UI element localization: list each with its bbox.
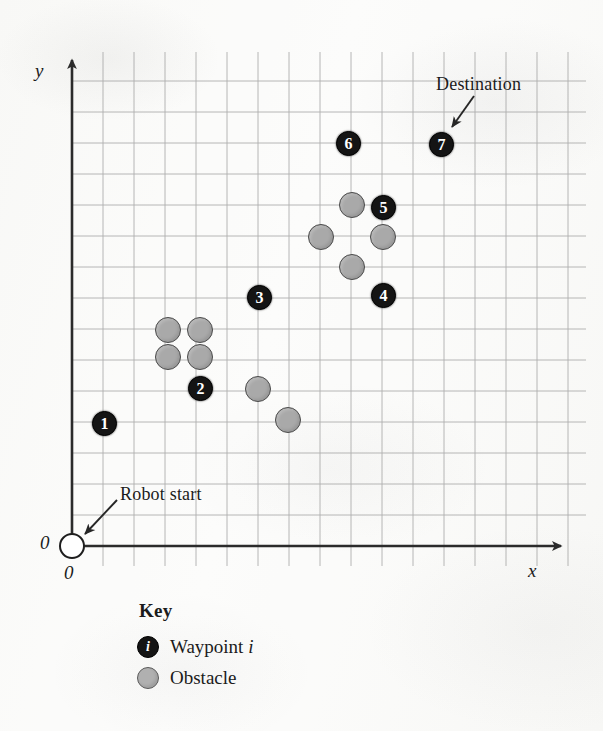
robot-start-leader-arrow	[85, 500, 117, 534]
key-label-waypoint-text: Waypoint	[170, 636, 248, 657]
key-title: Key	[139, 600, 253, 622]
x-origin-label: 0	[64, 562, 74, 584]
obstacle-marker	[275, 407, 301, 433]
waypoint-marker-7: 7	[429, 132, 454, 157]
obstacle-marker	[339, 254, 365, 280]
obstacle-marker	[308, 224, 334, 250]
key-row-obstacle: Obstacle	[137, 662, 253, 693]
obstacle-marker	[370, 224, 396, 250]
waypoint-marker-3: 3	[247, 285, 272, 310]
waypoint-marker-icon: i	[137, 636, 159, 658]
key-label-waypoint: Waypoint i	[170, 636, 253, 658]
key-label-waypoint-index: i	[248, 636, 253, 657]
waypoint-marker-5: 5	[371, 195, 396, 220]
waypoint-marker-4: 4	[371, 283, 396, 308]
plot-canvas	[0, 0, 603, 731]
waypoint-marker-6: 6	[336, 131, 361, 156]
y-axis-label: y	[35, 60, 43, 82]
obstacle-marker-icon	[137, 667, 159, 689]
destination-leader-arrow	[452, 96, 474, 127]
obstacle-marker	[187, 317, 213, 343]
obstacle-marker	[339, 192, 365, 218]
waypoint-marker-2: 2	[188, 376, 213, 401]
waypoint-grid-figure: y x 0 0 Destination Robot start 1 2 3 4 …	[0, 0, 603, 731]
y-origin-label: 0	[40, 532, 50, 554]
destination-annotation: Destination	[436, 74, 521, 95]
key-label-obstacle: Obstacle	[170, 667, 236, 689]
waypoint-marker-1: 1	[92, 411, 117, 436]
obstacle-marker	[187, 344, 213, 370]
robot-start-marker	[59, 533, 85, 559]
robot-start-annotation: Robot start	[120, 484, 202, 505]
obstacle-marker	[245, 376, 271, 402]
key-legend: Key i Waypoint i Obstacle	[137, 600, 253, 693]
obstacle-marker	[155, 344, 181, 370]
obstacle-marker	[155, 317, 181, 343]
x-axis-label: x	[528, 560, 536, 582]
key-row-waypoint: i Waypoint i	[137, 631, 253, 662]
